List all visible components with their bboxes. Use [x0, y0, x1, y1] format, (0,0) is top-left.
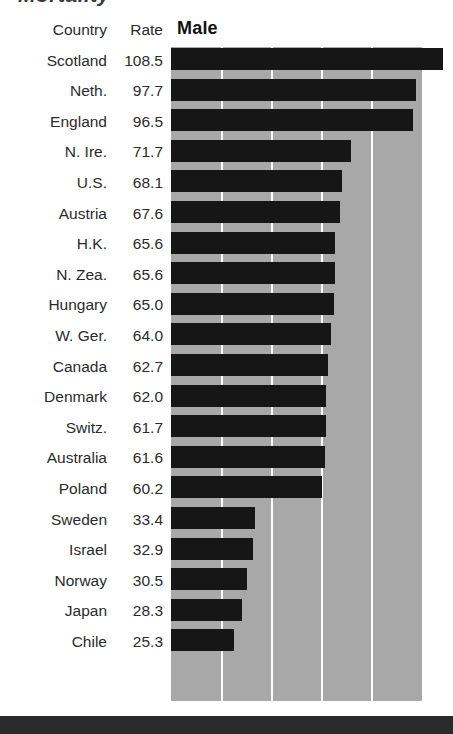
row-country-label: Australia [47, 449, 111, 467]
row-rate-value: 65.6 [111, 266, 163, 284]
row-rate-value: 71.7 [111, 143, 163, 161]
bar-chile [171, 629, 234, 651]
bar-israel [171, 538, 253, 560]
row-country-label: Japan [65, 602, 111, 620]
row-country-label: Sweden [51, 511, 111, 529]
row-country-label: W. Ger. [55, 327, 111, 345]
row-rate-value: 96.5 [111, 113, 163, 131]
bar-australia [171, 446, 325, 468]
row-rate-value: 62.7 [111, 358, 163, 376]
bar-hungary [171, 293, 334, 315]
row-country-label: Austria [59, 205, 111, 223]
bar-scotland [171, 48, 443, 70]
bar-austria [171, 201, 340, 223]
bar-japan [171, 599, 242, 621]
column-header-country: Country [53, 21, 111, 39]
bar-poland [171, 476, 322, 498]
row-country-label: Denmark [44, 388, 111, 406]
table-row: Neth.97.7 [0, 77, 163, 105]
row-country-label: N. Ire. [65, 143, 111, 161]
table-row: Poland60.2 [0, 475, 163, 503]
bar-norway [171, 568, 247, 590]
table-row: Japan28.3 [0, 597, 163, 625]
page-title: Mortality [18, 0, 110, 7]
row-rate-value: 32.9 [111, 541, 163, 559]
table-row: H.K.65.6 [0, 230, 163, 258]
table-row: Denmark62.0 [0, 383, 163, 411]
table-row: W. Ger.64.0 [0, 322, 163, 350]
bar-n-ire [171, 140, 351, 162]
table-row: England96.5 [0, 108, 163, 136]
row-country-label: Norway [54, 572, 111, 590]
bar-w-ger [171, 323, 331, 345]
row-rate-value: 65.0 [111, 296, 163, 314]
table-header-row: CountryRate [0, 16, 163, 44]
bar-england [171, 109, 413, 131]
series-title-male: Male [177, 18, 218, 39]
clipped-title-strip: Mortality [0, 0, 453, 14]
row-country-label: U.S. [77, 174, 111, 192]
table-row: Scotland108.5 [0, 47, 163, 75]
row-country-label: Neth. [70, 82, 111, 100]
row-country-label: H.K. [77, 235, 111, 253]
row-rate-value: 25.3 [111, 633, 163, 651]
row-rate-value: 62.0 [111, 388, 163, 406]
bar-neth [171, 79, 416, 101]
plot-area [171, 47, 453, 701]
table-row: Canada62.7 [0, 353, 163, 381]
table-row: Switz.61.7 [0, 414, 163, 442]
table-row: Chile25.3 [0, 628, 163, 656]
table-row: Hungary65.0 [0, 291, 163, 319]
table-row: U.S.68.1 [0, 169, 163, 197]
country-rate-label-table: CountryRateScotland108.5Neth.97.7England… [0, 14, 171, 714]
row-country-label: Chile [72, 633, 111, 651]
row-rate-value: 64.0 [111, 327, 163, 345]
row-rate-value: 60.2 [111, 480, 163, 498]
bottom-rule-divider [0, 716, 453, 734]
row-rate-value: 67.6 [111, 205, 163, 223]
table-row: N. Zea.65.6 [0, 261, 163, 289]
bar-u-s [171, 170, 342, 192]
row-rate-value: 68.1 [111, 174, 163, 192]
bar-sweden [171, 507, 255, 529]
row-country-label: Poland [59, 480, 111, 498]
bar-n-zea [171, 262, 335, 284]
row-country-label: England [50, 113, 111, 131]
table-row: N. Ire.71.7 [0, 138, 163, 166]
row-country-label: Scotland [47, 52, 111, 70]
row-rate-value: 61.6 [111, 449, 163, 467]
gridline-80 [371, 47, 373, 701]
row-rate-value: 30.5 [111, 572, 163, 590]
row-rate-value: 108.5 [111, 52, 163, 70]
mortality-rate-bar-chart: CountryRateScotland108.5Neth.97.7England… [0, 14, 453, 714]
row-country-label: Hungary [48, 296, 111, 314]
column-header-rate: Rate [111, 21, 163, 39]
row-country-label: Israel [69, 541, 111, 559]
table-row: Norway30.5 [0, 567, 163, 595]
row-rate-value: 65.6 [111, 235, 163, 253]
bar-switz [171, 415, 326, 437]
row-country-label: Switz. [66, 419, 111, 437]
row-country-label: Canada [53, 358, 111, 376]
table-row: Austria67.6 [0, 200, 163, 228]
bar-h-k [171, 232, 335, 254]
row-rate-value: 61.7 [111, 419, 163, 437]
table-row: Israel32.9 [0, 536, 163, 564]
row-rate-value: 33.4 [111, 511, 163, 529]
row-country-label: N. Zea. [56, 266, 111, 284]
row-rate-value: 28.3 [111, 602, 163, 620]
bar-denmark [171, 385, 326, 407]
table-row: Sweden33.4 [0, 506, 163, 534]
table-row: Australia61.6 [0, 444, 163, 472]
row-rate-value: 97.7 [111, 82, 163, 100]
bar-canada [171, 354, 328, 376]
